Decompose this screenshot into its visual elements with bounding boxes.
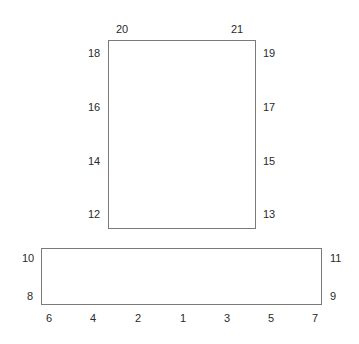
- label-bottom-5: 3: [224, 312, 230, 324]
- label-left-4: 12: [88, 208, 100, 220]
- label-left-3: 14: [88, 155, 100, 167]
- label-right-3: 15: [263, 155, 275, 167]
- label-bottom-2: 4: [90, 312, 96, 324]
- label-top-right: 21: [231, 23, 243, 35]
- label-bottom-4: 1: [180, 312, 186, 324]
- lower-rectangle: [41, 248, 322, 305]
- label-left-1: 18: [88, 47, 100, 59]
- label-right-1: 19: [263, 47, 275, 59]
- label-bottom-1: 6: [46, 312, 52, 324]
- label-bottom-3: 2: [135, 312, 141, 324]
- label-lower-right-1: 11: [330, 252, 341, 264]
- label-right-2: 17: [263, 101, 275, 113]
- label-lower-right-2: 9: [330, 290, 336, 302]
- label-lower-left-2: 8: [27, 290, 33, 302]
- upper-rectangle: [108, 40, 256, 229]
- label-top-left: 20: [116, 23, 128, 35]
- label-bottom-7: 7: [312, 312, 318, 324]
- label-bottom-6: 5: [268, 312, 274, 324]
- label-lower-left-1: 10: [22, 252, 34, 264]
- label-right-4: 13: [263, 208, 275, 220]
- label-left-2: 16: [88, 101, 100, 113]
